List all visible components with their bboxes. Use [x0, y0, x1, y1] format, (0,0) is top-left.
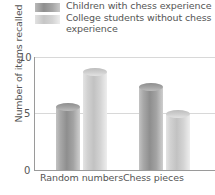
bar-chart-figure: Children with chess experience College s…: [0, 0, 215, 195]
y-axis-title: Number of items recalled: [13, 0, 24, 134]
bar-body: [166, 114, 190, 170]
bar-body: [83, 72, 107, 170]
x-category-label-chess-pieces: Chess pieces: [0, 172, 215, 183]
bar-cylinder-top: [139, 83, 163, 91]
legend-item-college: College students without chess experienc…: [35, 13, 215, 34]
bar-chess-pieces-series-1: [166, 110, 190, 170]
y-tick-label-5: 5: [24, 108, 30, 119]
bar-chess-pieces-series-0: [139, 83, 163, 170]
plot-area: [34, 57, 215, 170]
chart-legend: Children with chess experience College s…: [35, 1, 215, 35]
bar-random-numbers-series-1: [83, 68, 107, 170]
bar-random-numbers-series-0: [56, 103, 80, 170]
legend-item-children: Children with chess experience: [35, 1, 215, 12]
legend-swatch-children: [35, 3, 60, 12]
y-axis-line: [34, 57, 35, 171]
gridline-10: [34, 57, 215, 58]
x-axis-line: [34, 170, 215, 171]
y-tick-label-10: 10: [19, 52, 32, 63]
legend-label-children: Children with chess experience: [66, 1, 211, 12]
bar-body: [139, 87, 163, 170]
bar-body: [56, 107, 80, 170]
legend-label-college: College students without chess experienc…: [66, 13, 211, 34]
legend-swatch-college: [35, 15, 60, 24]
